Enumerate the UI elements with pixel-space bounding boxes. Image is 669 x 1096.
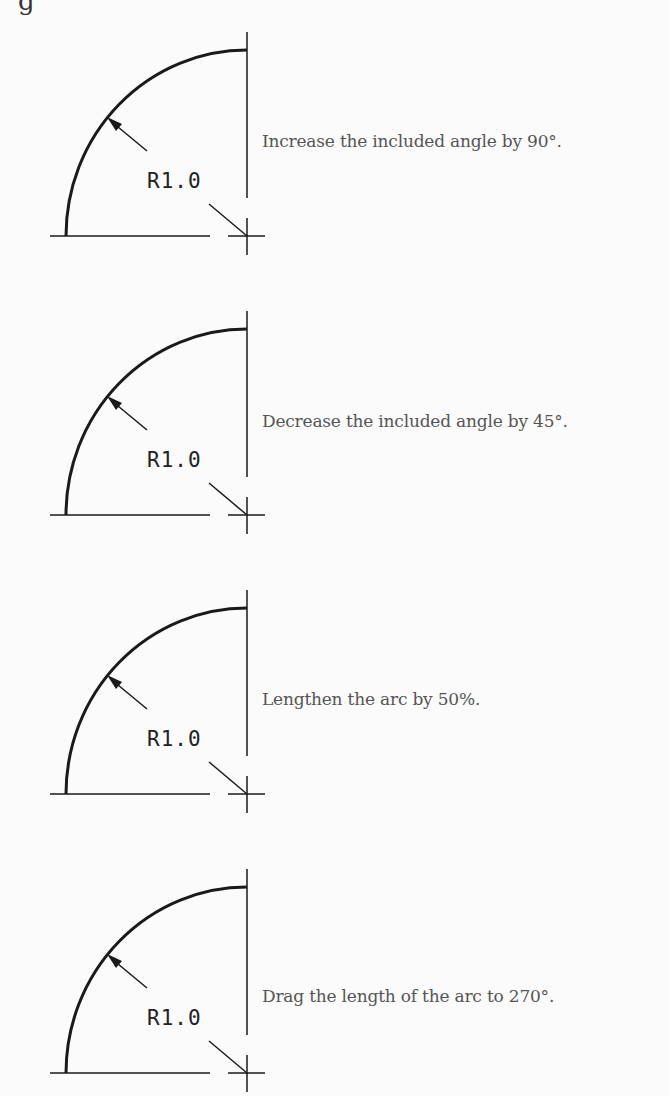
instruction-text: Increase the included angle by 90°. <box>262 131 562 151</box>
radius-dimension-label: R1.0 <box>147 727 202 751</box>
arc-drawing-4: R1.0 <box>0 837 669 1096</box>
arc-panel-3: R1.0 Lengthen the arc by 50%. <box>0 558 669 837</box>
arc-geometry <box>66 608 247 794</box>
arc-panel-4: R1.0 Drag the length of the arc to 270°. <box>0 837 669 1096</box>
arc-geometry <box>66 887 247 1073</box>
radius-dimension-label: R1.0 <box>147 169 202 193</box>
instruction-text: Decrease the included angle by 45°. <box>262 411 568 431</box>
instruction-text: Drag the length of the arc to 270°. <box>262 986 554 1006</box>
center-leader <box>209 204 247 236</box>
instruction-text: Lengthen the arc by 50%. <box>262 689 480 709</box>
radius-dimension-label: R1.0 <box>147 448 202 472</box>
arc-geometry <box>66 329 247 515</box>
arc-panel-1: R1.0 Increase the included angle by 90°. <box>0 0 669 279</box>
center-leader <box>209 483 247 515</box>
center-leader <box>209 762 247 794</box>
radius-dimension-label: R1.0 <box>147 1006 202 1030</box>
arc-geometry <box>66 50 247 236</box>
center-leader <box>209 1041 247 1073</box>
arc-panel-2: R1.0 Decrease the included angle by 45°. <box>0 279 669 558</box>
